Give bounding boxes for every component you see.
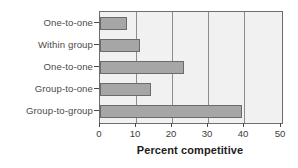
bar-chart-figure: One-to-one Within group One-to-one Group… — [0, 0, 298, 168]
bar-0 — [100, 17, 127, 30]
x-axis-tick-50 — [280, 123, 281, 127]
gridline-40 — [244, 12, 245, 123]
x-axis-title: Percent competitive — [99, 144, 281, 156]
x-axis-tick-30 — [207, 123, 208, 127]
y-axis-label-3: Group-to-one — [0, 83, 93, 94]
y-axis-category-labels: One-to-one Within group One-to-one Group… — [0, 11, 93, 122]
bar-2 — [100, 61, 184, 74]
y-axis-label-4: Group-to-group — [0, 105, 93, 116]
bar-1 — [100, 39, 140, 52]
y-axis-label-0: One-to-one — [0, 17, 93, 28]
x-axis-tick-label-0: 0 — [87, 128, 111, 139]
x-axis-tick-label-50: 50 — [268, 128, 292, 139]
x-axis-tick-label-20: 20 — [159, 128, 183, 139]
x-axis-tick-label-40: 40 — [231, 128, 255, 139]
bar-4 — [100, 105, 242, 118]
y-axis-label-1: Within group — [0, 39, 93, 50]
x-axis-tick-40 — [243, 123, 244, 127]
x-axis-tick-10 — [135, 123, 136, 127]
bar-3 — [100, 83, 151, 96]
x-axis-tick-label-30: 30 — [195, 128, 219, 139]
x-axis-tick-20 — [171, 123, 172, 127]
x-axis-tick-0 — [99, 123, 100, 127]
x-axis-tick-label-10: 10 — [123, 128, 147, 139]
plot-area — [99, 11, 283, 124]
y-axis-label-2: One-to-one — [0, 61, 93, 72]
